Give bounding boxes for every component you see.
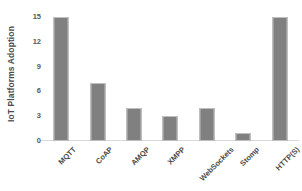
x-axis-tick-labels: MQTTCoAPAMQPXMPPWebSocketsStompHTTP(S) [43,142,298,191]
y-tick-label: 3 [25,112,41,120]
x-tick-label: Stomp [239,145,262,168]
bar-slot [43,17,79,141]
x-label-slot: CoAP [79,142,115,191]
y-axis-title-label: IoT Platforms Adoption [6,26,16,122]
y-tick-label: 9 [25,63,41,71]
bar-slot [262,17,298,141]
bar-chart: IoT Platforms Adoption 03691215 MQTTCoAP… [0,0,302,191]
bar-slot [116,17,152,141]
bar-slot [225,17,261,141]
bar-slot [189,17,225,141]
x-label-slot: XMPP [152,142,188,191]
bar[interactable] [272,17,287,141]
y-tick-label: 15 [25,13,41,21]
x-tick-label: XMPP [166,145,187,166]
x-label-slot: Stomp [225,142,261,191]
x-label-slot: WebSockets [189,142,225,191]
x-label-slot: MQTT [43,142,79,191]
x-tick-label: CoAP [93,145,114,166]
x-tick-label: HTTP(S) [274,145,301,172]
bar-slot [79,17,115,141]
y-tick-label: 0 [25,137,41,145]
bar[interactable] [127,108,142,141]
bar[interactable] [236,133,251,141]
y-tick-label: 12 [25,38,41,46]
x-tick-label: MQTT [57,145,78,166]
y-axis-tick-labels: 03691215 [20,0,41,160]
x-tick-label: AMQP [129,145,151,167]
x-label-slot: AMQP [116,142,152,191]
bar-slot [152,17,188,141]
bar[interactable] [90,83,105,141]
y-axis-title: IoT Platforms Adoption [2,0,20,148]
plot-area [43,17,298,141]
bar[interactable] [54,17,69,141]
bar[interactable] [163,116,178,141]
x-label-slot: HTTP(S) [262,142,298,191]
bar[interactable] [199,108,214,141]
y-tick-label: 6 [25,87,41,95]
